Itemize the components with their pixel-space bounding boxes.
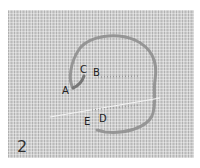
step-number: 2 (17, 139, 27, 155)
label-e: E (84, 117, 90, 127)
embroidery-illustration (0, 0, 200, 168)
stitch-start-segment (73, 76, 84, 88)
label-d: D (99, 114, 107, 124)
guide-marks-upper (98, 76, 138, 77)
label-a: A (62, 86, 69, 96)
label-c: C (80, 65, 87, 75)
label-b: B (93, 68, 100, 78)
